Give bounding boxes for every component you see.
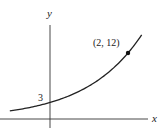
exponential-graph: y x 3 (2, 12) [0, 0, 161, 128]
point-label: (2, 12) [93, 37, 120, 49]
y-intercept-label: 3 [38, 92, 43, 103]
x-axis-label: x [151, 112, 157, 124]
exponential-curve [10, 35, 142, 111]
y-axis-label: y [46, 7, 52, 19]
point-marker [126, 51, 130, 55]
